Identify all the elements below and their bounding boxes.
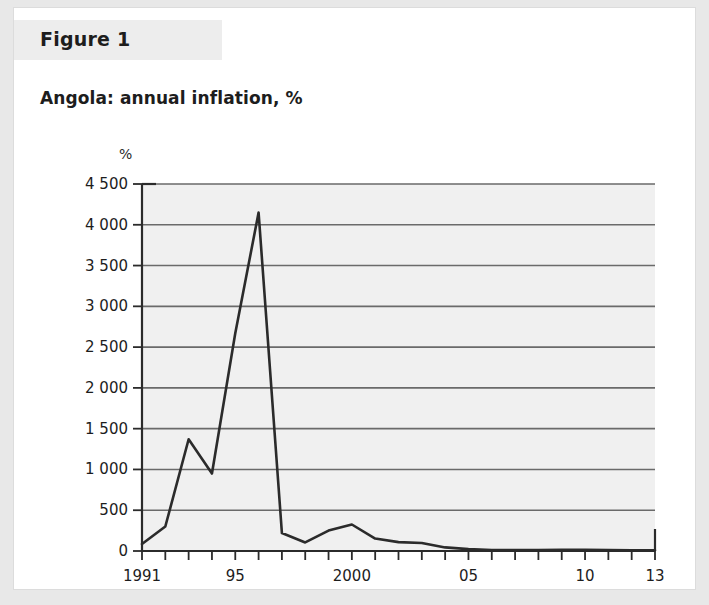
svg-text:4 000: 4 000 <box>85 216 128 234</box>
x-axis-ticks <box>142 551 655 560</box>
page-root: Figure 1 Angola: annual inflation, % % 0… <box>0 0 709 605</box>
y-axis-tick-labels: 05001 0001 5002 0002 5003 0003 5004 0004… <box>85 175 128 560</box>
svg-text:05: 05 <box>459 567 478 585</box>
svg-text:2 500: 2 500 <box>85 338 128 356</box>
plot-background <box>142 184 655 551</box>
y-axis-ticks <box>133 184 142 551</box>
svg-text:1 000: 1 000 <box>85 460 128 478</box>
svg-text:10: 10 <box>575 567 594 585</box>
chart-canvas: 05001 0001 5002 0002 5003 0003 5004 0004… <box>14 8 695 589</box>
svg-text:1991: 1991 <box>123 567 161 585</box>
inflation-line-chart: 05001 0001 5002 0002 5003 0003 5004 0004… <box>14 8 695 589</box>
svg-text:0: 0 <box>118 542 128 560</box>
svg-text:2000: 2000 <box>333 567 371 585</box>
svg-text:1 500: 1 500 <box>85 420 128 438</box>
svg-text:4 500: 4 500 <box>85 175 128 193</box>
svg-text:13: 13 <box>645 567 664 585</box>
x-axis-tick-labels: 1991952000051013 <box>123 567 665 585</box>
svg-text:95: 95 <box>226 567 245 585</box>
svg-text:3 500: 3 500 <box>85 257 128 275</box>
svg-text:500: 500 <box>99 501 128 519</box>
figure-card: Figure 1 Angola: annual inflation, % % 0… <box>14 8 695 589</box>
svg-text:2 000: 2 000 <box>85 379 128 397</box>
svg-text:3 000: 3 000 <box>85 297 128 315</box>
